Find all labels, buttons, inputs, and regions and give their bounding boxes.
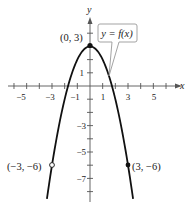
point-label-right: (3, −6) xyxy=(132,161,161,173)
point-vertex xyxy=(87,43,92,48)
x-tick-labels: −5 −3 −1 1 3 5 xyxy=(16,92,157,102)
y-tick-label: 1 xyxy=(80,68,85,78)
y-tick-label: −3 xyxy=(76,121,86,131)
x-tick-label: −5 xyxy=(16,92,26,102)
point-label-left: (−3, −6) xyxy=(7,161,42,173)
y-tick-label: −5 xyxy=(76,147,86,157)
y-axis-label: y xyxy=(86,4,92,15)
point-filled-right xyxy=(126,163,131,168)
x-axis: x xyxy=(8,80,185,91)
y-axis: y xyxy=(86,4,93,202)
x-tick-label: 1 xyxy=(101,92,106,102)
x-tick-label: −1 xyxy=(70,92,80,102)
y-tick-labels: 1 −3 −5 −7 xyxy=(76,68,86,184)
point-open-left xyxy=(50,163,55,168)
function-callout: y = f(x) xyxy=(98,24,137,76)
x-tick-label: 5 xyxy=(152,92,157,102)
y-axis-arrow-icon xyxy=(88,17,93,24)
x-tick-label: 3 xyxy=(126,92,131,102)
y-tick-label: −7 xyxy=(76,174,86,184)
point-label-vertex: (0, 3) xyxy=(60,32,83,44)
callout-label: y = f(x) xyxy=(100,28,133,40)
x-tick-label: −3 xyxy=(45,92,55,102)
function-graph: x y −5 −3 −1 1 3 5 1 −3 −5 −7 y = f(x) (… xyxy=(0,0,186,202)
x-axis-label: x xyxy=(179,80,185,91)
